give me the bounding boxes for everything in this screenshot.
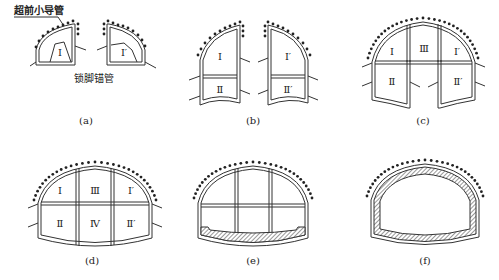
section-label: Ⅰ [390, 46, 394, 57]
advance-pipe-label: 超前小导管 [13, 4, 64, 16]
section-label: Ⅰ′ [121, 47, 128, 58]
caption-c: (c) [416, 115, 430, 126]
panel-f [371, 164, 479, 245]
caption-e: (e) [246, 255, 260, 266]
section-label: Ⅰ [58, 47, 62, 58]
section-label: Ⅱ [217, 84, 224, 95]
section-label: Ⅳ [90, 218, 101, 229]
caption-f: (f) [419, 255, 431, 266]
section-label: Ⅰ′ [454, 46, 461, 57]
section-label: Ⅰ′ [285, 51, 292, 62]
section-label: Ⅲ [419, 43, 429, 54]
tunnel-excavation-diagram: 超前小导管 锁脚锚管 Ⅰ Ⅰ′ Ⅰ Ⅱ Ⅰ′ Ⅱ′ Ⅰ Ⅲ Ⅰ′ Ⅱ Ⅱ′ Ⅰ … [0, 0, 499, 280]
panel-a [14, 17, 156, 68]
panel-c [362, 22, 485, 108]
section-label: Ⅱ [389, 76, 396, 87]
section-label: Ⅲ [90, 185, 100, 196]
section-label: Ⅰ [218, 51, 222, 62]
panel-e [198, 166, 308, 246]
section-label: Ⅱ [57, 218, 64, 229]
caption-b: (b) [246, 115, 260, 126]
section-label: Ⅱ′ [453, 76, 463, 87]
foot-lock-pipe-label: 锁脚锚管 [74, 72, 114, 84]
caption-a: (a) [79, 115, 93, 126]
section-label: Ⅱ′ [283, 84, 293, 95]
section-label: Ⅱ′ [126, 218, 136, 229]
section-label: Ⅰ [58, 185, 62, 196]
caption-d: (d) [85, 255, 99, 266]
section-label: Ⅰ′ [128, 185, 135, 196]
